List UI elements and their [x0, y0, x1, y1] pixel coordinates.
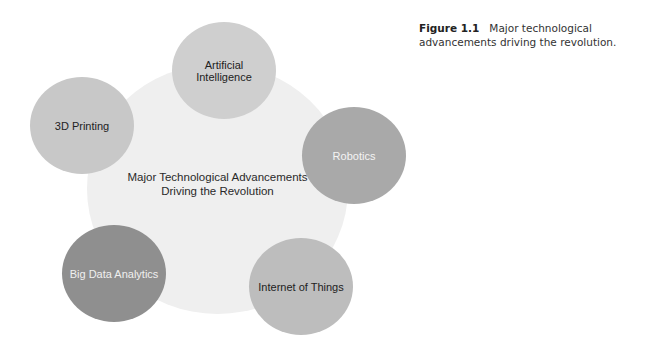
- node-internet-of-things: Internet of Things: [249, 238, 353, 335]
- figure-number: Figure 1.1: [419, 22, 479, 34]
- node-label: 3D Printing: [51, 120, 113, 132]
- node-robotics: Robotics: [302, 107, 406, 204]
- node-label: Robotics: [329, 150, 380, 162]
- node-label: Big Data Analytics: [66, 268, 163, 280]
- center-label-line2: Driving the Revolution: [87, 184, 348, 198]
- technology-diagram: Major Technological Advancements Driving…: [0, 0, 420, 349]
- node-artificial-intelligence: Artificial Intelligence: [172, 22, 276, 119]
- figure-caption: Figure 1.1Major technological advancemen…: [419, 21, 664, 49]
- node-label: Artificial Intelligence: [172, 59, 276, 83]
- node-3d-printing: 3D Printing: [30, 77, 134, 174]
- node-big-data-analytics: Big Data Analytics: [62, 225, 166, 322]
- node-label: Internet of Things: [254, 281, 347, 293]
